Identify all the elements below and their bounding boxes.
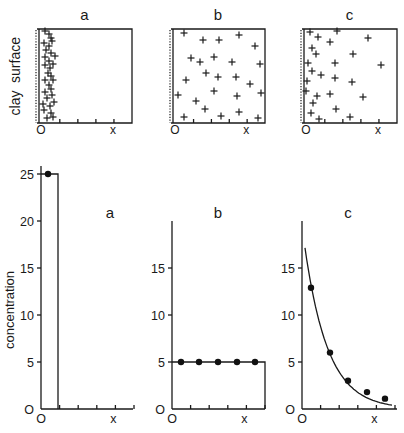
- particle-plus-icon: [175, 92, 182, 99]
- x-origin-label: O: [167, 412, 177, 426]
- figure: surface clay aOxbOxcOx concentration aO5…: [0, 0, 404, 433]
- particle-plus-icon: [247, 81, 254, 88]
- particle-plus-icon: [216, 37, 223, 44]
- data-point: [234, 359, 240, 365]
- particle-plus-icon: [41, 107, 48, 114]
- y-tick-label: 15: [281, 262, 295, 276]
- side-label-clay: clay: [7, 91, 23, 116]
- y-tick-label: 10: [151, 309, 165, 323]
- particle-plus-icon: [252, 43, 259, 50]
- particle-plus-icon: [211, 54, 218, 61]
- chart-panel-c: cO51015Ox: [281, 204, 397, 426]
- particle-plus-icon: [318, 72, 325, 79]
- top-panel-c: cOx: [301, 6, 397, 137]
- distribution-step: [41, 174, 58, 409]
- particle-plus-icon: [236, 32, 243, 39]
- x-distance-label: x: [375, 123, 381, 137]
- particle-plus-icon: [197, 59, 204, 66]
- x-origin-label: O: [36, 412, 46, 426]
- x-distance-label: x: [241, 412, 248, 426]
- data-point: [327, 349, 333, 355]
- particle-plus-icon: [183, 77, 190, 84]
- panel-label: a: [80, 6, 89, 23]
- particle-plus-icon: [349, 79, 356, 86]
- particle-plus-icon: [215, 74, 222, 81]
- chart-panel-a: aO510152025Ox: [20, 166, 134, 426]
- data-point: [45, 171, 51, 177]
- panel-label: c: [344, 204, 352, 221]
- particle-plus-icon: [47, 103, 54, 110]
- particle-plus-icon: [310, 100, 317, 107]
- top-panel-a: aOx: [36, 6, 132, 137]
- data-point: [196, 359, 202, 365]
- particle-plus-icon: [333, 106, 340, 113]
- top-row: surface clay aOxbOxcOx: [7, 6, 397, 137]
- particle-plus-icon: [309, 68, 316, 75]
- chart-panel-b: bO51015Ox: [151, 204, 265, 426]
- particle-plus-icon: [365, 35, 372, 42]
- data-point: [252, 359, 258, 365]
- data-point: [178, 359, 184, 365]
- distribution-step: [172, 362, 265, 409]
- particle-plus-icon: [315, 34, 322, 41]
- particle-plus-icon: [202, 106, 209, 113]
- y-tick-label: 20: [20, 215, 34, 229]
- particle-plus-icon: [42, 54, 49, 61]
- y-tick-label: 10: [20, 309, 34, 323]
- particle-plus-icon: [350, 51, 357, 58]
- particle-plus-icon: [257, 61, 264, 68]
- particle-plus-icon: [327, 39, 334, 46]
- bottom-row: concentration aO510152025OxbO51015OxcO51…: [2, 166, 397, 426]
- x-origin-label: O: [170, 123, 179, 137]
- y-tick-label: O: [285, 403, 295, 417]
- data-point: [382, 395, 388, 401]
- particle-plus-icon: [51, 99, 58, 106]
- particle-plus-icon: [44, 115, 51, 122]
- particle-plus-icon: [332, 60, 339, 67]
- particle-plus-icon: [305, 60, 312, 67]
- y-tick-label: 5: [27, 356, 34, 370]
- particle-plus-icon: [42, 77, 49, 84]
- particle-plus-icon: [347, 114, 354, 121]
- particle-plus-icon: [378, 62, 385, 69]
- x-distance-label: x: [110, 123, 116, 137]
- particle-plus-icon: [258, 90, 265, 97]
- particle-plus-icon: [218, 113, 225, 120]
- data-point: [345, 378, 351, 384]
- x-distance-label: x: [371, 412, 378, 426]
- particle-plus-icon: [181, 30, 188, 37]
- particle-plus-icon: [188, 55, 195, 62]
- y-tick-label: O: [24, 403, 34, 417]
- particle-plus-icon: [203, 70, 210, 77]
- y-tick-label: 5: [158, 356, 165, 370]
- y-tick-label: O: [155, 403, 165, 417]
- particle-plus-icon: [234, 93, 241, 100]
- particle-plus-icon: [200, 37, 207, 44]
- particle-plus-icon: [314, 93, 321, 100]
- particle-plus-icon: [308, 110, 315, 117]
- particle-plus-icon: [211, 88, 218, 95]
- particle-plus-icon: [309, 45, 316, 52]
- y-tick-label: 10: [281, 309, 295, 323]
- y-tick-label: 25: [20, 168, 34, 182]
- particle-plus-icon: [327, 91, 334, 98]
- particle-plus-icon: [313, 51, 320, 58]
- particle-plus-icon: [360, 94, 367, 101]
- y-tick-label: 15: [20, 262, 34, 276]
- data-point: [215, 359, 221, 365]
- particle-plus-icon: [42, 89, 49, 96]
- side-label-surface: surface: [7, 37, 23, 83]
- panel-frame: [302, 29, 397, 123]
- particle-plus-icon: [233, 74, 240, 81]
- x-distance-label: x: [243, 123, 249, 137]
- x-origin-label: O: [36, 123, 45, 137]
- x-origin-label: O: [301, 123, 310, 137]
- y-axis-label: concentration: [2, 271, 17, 349]
- y-tick-label: 15: [151, 262, 165, 276]
- particle-plus-icon: [181, 114, 188, 121]
- x-origin-label: O: [297, 412, 307, 426]
- data-point: [308, 285, 314, 291]
- panel-label: b: [214, 204, 222, 221]
- particle-plus-icon: [193, 98, 200, 105]
- panel-label: b: [214, 6, 222, 23]
